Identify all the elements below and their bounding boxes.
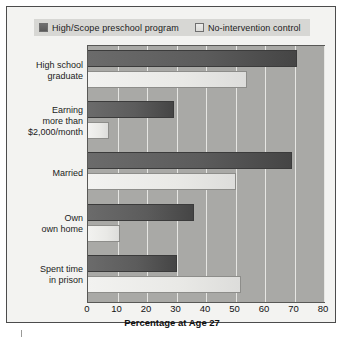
y-axis-label: Married <box>13 168 83 179</box>
y-axis-label: Spent timein prison <box>13 264 83 286</box>
x-axis-tick: 40 <box>200 303 211 314</box>
bars-layer <box>88 46 324 302</box>
bar-preschool-program <box>88 204 194 221</box>
legend-swatch-dark-icon <box>39 23 48 32</box>
x-axis-tick: 30 <box>170 303 181 314</box>
bar-group <box>88 46 324 97</box>
gridline <box>324 46 325 302</box>
bar-control <box>88 225 120 242</box>
bar-group <box>88 148 324 199</box>
x-axis-tick: 10 <box>111 303 122 314</box>
legend-label-preschool-program: High/Scope preschool program <box>52 23 179 33</box>
x-axis-tick: 50 <box>229 303 240 314</box>
bar-group <box>88 200 324 251</box>
plot-area <box>87 45 325 303</box>
x-axis-tick-labels: 01020304050607080 <box>87 303 323 317</box>
bar-control <box>88 173 236 190</box>
scan-artifact-mark <box>21 330 22 337</box>
x-axis-tick: 20 <box>141 303 152 314</box>
x-axis-tick: 80 <box>318 303 329 314</box>
bar-group <box>88 97 324 148</box>
y-axis-category-labels: High schoolgraduateEarningmore than$2,00… <box>13 45 83 301</box>
x-axis-tick: 0 <box>84 303 89 314</box>
bar-control <box>88 276 241 293</box>
figure-frame: High/Scope preschool program No-interven… <box>6 6 336 323</box>
bar-group <box>88 251 324 302</box>
bar-control <box>88 122 109 139</box>
bar-preschool-program <box>88 50 297 67</box>
x-axis-title: Percentage at Age 27 <box>7 317 337 328</box>
bar-preschool-program <box>88 101 174 118</box>
legend-entry-preschool-program: High/Scope preschool program <box>39 23 179 33</box>
legend-entry-control: No-intervention control <box>195 23 301 33</box>
y-axis-label: Ownown home <box>13 213 83 235</box>
bar-preschool-program <box>88 152 292 169</box>
legend-label-control: No-intervention control <box>208 23 301 33</box>
chart-legend: High/Scope preschool program No-interven… <box>34 19 310 36</box>
y-axis-label: High schoolgraduate <box>13 60 83 82</box>
x-axis-tick: 60 <box>259 303 270 314</box>
y-axis-label: Earningmore than$2,000/month <box>13 105 83 138</box>
bar-preschool-program <box>88 255 177 272</box>
bar-control <box>88 71 247 88</box>
legend-swatch-light-icon <box>195 23 204 32</box>
x-axis-tick: 70 <box>288 303 299 314</box>
